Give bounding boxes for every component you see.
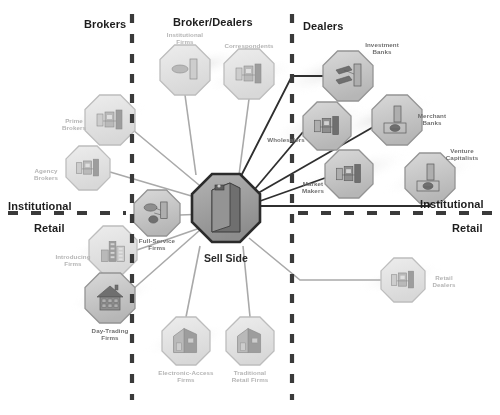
hub-sell-side[interactable] [192, 174, 260, 242]
hub-label: Sell Side [204, 252, 248, 264]
building-tower-icon [212, 183, 240, 232]
header-retail-left: Retail [34, 222, 65, 234]
node-investment-banks[interactable] [323, 51, 373, 101]
header-broker-dealers: Broker/Dealers [173, 16, 253, 28]
caption-correspondents: Correspondents [205, 42, 293, 49]
node-day-trading-firms[interactable] [85, 273, 135, 323]
edge-electronic-access-hub [186, 246, 200, 317]
caption-venture-capitalists: Venture Capitalists [418, 147, 500, 162]
node-traditional-retail[interactable] [226, 317, 274, 365]
caption-investment-banks: Investment Banks [338, 41, 426, 56]
caption-traditional-retail: Traditional Retail Firms [206, 369, 294, 384]
caption-agency-brokers: Agency Brokers [2, 167, 90, 182]
caption-full-service-firms: Full-Service Firms [113, 237, 201, 252]
edge-venture-capitalists-hub [246, 203, 430, 206]
caption-wholesalers: Wholesalers [242, 136, 330, 143]
node-full-service-firms[interactable] [134, 190, 180, 236]
caption-market-makers: Market Makers [269, 180, 357, 195]
caption-introducing-firms: Introducing Firms [29, 253, 117, 268]
header-retail-right: Retail [452, 222, 483, 234]
header-institutional-right: Institutional [420, 198, 484, 210]
header-brokers: Brokers [84, 18, 126, 30]
header-dealers: Dealers [303, 20, 343, 32]
header-institutional-left: Institutional [8, 200, 72, 212]
node-electronic-access[interactable] [162, 317, 210, 365]
caption-retail-dealers: Retail Dealers [400, 274, 488, 289]
node-institutional-firms[interactable] [160, 45, 210, 95]
node-octagon [134, 190, 180, 236]
caption-merchant-banks: Merchant Banks [388, 112, 476, 127]
caption-day-trading-firms: Day-Trading Firms [66, 327, 154, 342]
caption-prime-brokers: Prime Brokers [30, 117, 118, 132]
node-correspondents[interactable] [224, 49, 274, 99]
diagram-canvas: BrokersBroker/DealersDealersInstitutiona… [0, 0, 500, 415]
edge-institutional-firms-hub [185, 95, 196, 175]
edge-retail-dealers-hub [249, 238, 381, 280]
